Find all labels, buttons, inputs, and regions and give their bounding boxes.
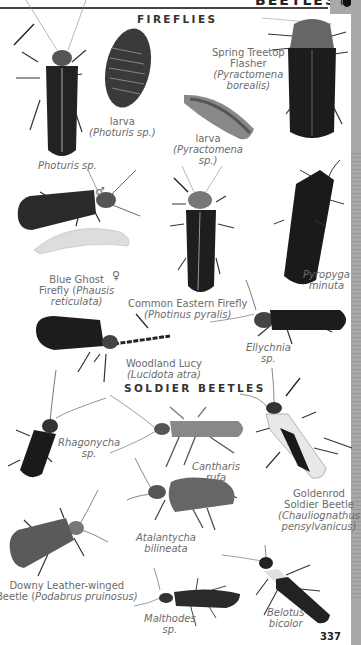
goldenrod-scientific-1: (Chauliognathus bbox=[278, 510, 360, 521]
goldenrod-common-2: Soldier Beetle bbox=[278, 499, 360, 510]
pyropyga-scientific-1: Pyropyga bbox=[303, 269, 350, 280]
belotus-scientific-1: Belotus bbox=[267, 607, 304, 618]
goldenrod-common-1: Goldenrod bbox=[278, 488, 360, 499]
pyropyga-scientific-2: minuta bbox=[303, 280, 350, 291]
pyractomena-larva-common-name: larva bbox=[173, 133, 243, 144]
section-title-fireflies: FIREFLIES bbox=[137, 13, 217, 25]
downy-leather-winged-image bbox=[4, 490, 114, 580]
atalantycha-label: Atalantycha bilineata bbox=[136, 532, 196, 554]
rhagonycha-scientific-1: Rhagonycha bbox=[58, 437, 120, 448]
downy-common-2: Beetle ( bbox=[0, 591, 35, 602]
photuris-scientific-name: Photuris sp. bbox=[38, 160, 97, 171]
spring-treetop-flasher-common-1: Spring Treetop bbox=[212, 47, 285, 58]
goldenrod-label: Goldenrod Soldier Beetle (Chauliognathus… bbox=[278, 488, 360, 532]
spring-treetop-flasher-label: Spring Treetop Flasher (Pyractomena bore… bbox=[212, 47, 285, 91]
belotus-scientific-2: bicolor bbox=[267, 618, 304, 629]
common-eastern-firefly-label: Common Eastern Firefly (Photinus pyralis… bbox=[128, 298, 247, 320]
common-eastern-common-name: Common Eastern Firefly bbox=[128, 298, 247, 309]
malthodes-label: Malthodes sp. bbox=[144, 613, 196, 635]
pyropyga-label: Pyropyga minuta bbox=[303, 269, 350, 291]
pyropyga-image bbox=[270, 140, 350, 290]
pyractomena-larva-scientific-1: (Pyractomena bbox=[173, 144, 243, 155]
blue-ghost-common-1: Blue Ghost bbox=[39, 274, 114, 285]
field-guide-page: BEETLES FIREFLIES SOLDIER BEETLES bbox=[0, 0, 361, 645]
photuris-image bbox=[10, 0, 90, 160]
rhagonycha-image bbox=[0, 370, 90, 480]
goldenrod-image bbox=[240, 368, 352, 493]
goldenrod-scientific-2: pensylvanicus) bbox=[278, 521, 360, 532]
blue-ghost-scientific-2: reticulata) bbox=[39, 296, 114, 307]
spring-treetop-flasher-scientific-1: (Pyractomena bbox=[212, 69, 285, 80]
photuris-larva-image bbox=[100, 28, 155, 113]
ellychnia-label: Ellychnia sp. bbox=[246, 342, 291, 364]
belotus-label: Belotus bicolor bbox=[267, 607, 304, 629]
malthodes-scientific-2: sp. bbox=[144, 624, 196, 635]
page-number: 337 bbox=[320, 631, 341, 642]
atalantycha-scientific-1: Atalantycha bbox=[136, 532, 196, 543]
downy-scientific: Podabrus pruinosus) bbox=[35, 591, 138, 602]
photuris-larva-common-name: larva bbox=[89, 116, 156, 127]
cantharis-scientific-2: rufa bbox=[192, 472, 240, 483]
cantharis-scientific-1: Cantharis bbox=[192, 461, 240, 472]
malthodes-scientific-1: Malthodes bbox=[144, 613, 196, 624]
spring-treetop-flasher-scientific-2: borealis) bbox=[212, 80, 285, 91]
atalantycha-scientific-2: bilineata bbox=[136, 543, 196, 554]
rhagonycha-scientific-2: sp. bbox=[58, 448, 120, 459]
ellychnia-scientific-2: sp. bbox=[246, 353, 291, 364]
blue-ghost-image bbox=[10, 170, 140, 260]
pyractomena-larva-scientific-2: sp.) bbox=[173, 155, 243, 166]
section-tab-text bbox=[351, 150, 361, 600]
photuris-larva-scientific-name: (Photuris sp.) bbox=[89, 127, 156, 138]
male-symbol: ♂ bbox=[95, 186, 105, 197]
downy-leather-winged-label: Downy Leather-winged Beetle (Podabrus pr… bbox=[0, 580, 138, 602]
rhagonycha-label: Rhagonycha sp. bbox=[58, 437, 120, 459]
cantharis-label: Cantharis rufa bbox=[192, 461, 240, 483]
pyractomena-larva-label: larva (Pyractomena sp.) bbox=[173, 133, 243, 166]
woodland-lucy-common-name: Woodland Lucy bbox=[126, 358, 202, 369]
blue-ghost-scientific-1: Phausis bbox=[76, 285, 114, 296]
woodland-lucy-scientific-name: (Lucidota atra) bbox=[126, 369, 202, 380]
woodland-lucy-label: Woodland Lucy (Lucidota atra) bbox=[126, 358, 202, 380]
photuris-label: Photuris sp. bbox=[38, 160, 97, 171]
common-eastern-scientific-name: (Photinus pyralis) bbox=[128, 309, 247, 320]
photuris-larva-label: larva (Photuris sp.) bbox=[89, 116, 156, 138]
blue-ghost-common-2: Firefly ( bbox=[39, 285, 76, 296]
spring-treetop-flasher-common-2: Flasher bbox=[212, 58, 285, 69]
downy-common-1: Downy Leather-winged bbox=[0, 580, 138, 591]
blue-ghost-label: Blue Ghost Firefly (Phausis reticulata) bbox=[39, 274, 114, 307]
common-eastern-firefly-image bbox=[160, 158, 240, 298]
ellychnia-scientific-1: Ellychnia bbox=[246, 342, 291, 353]
